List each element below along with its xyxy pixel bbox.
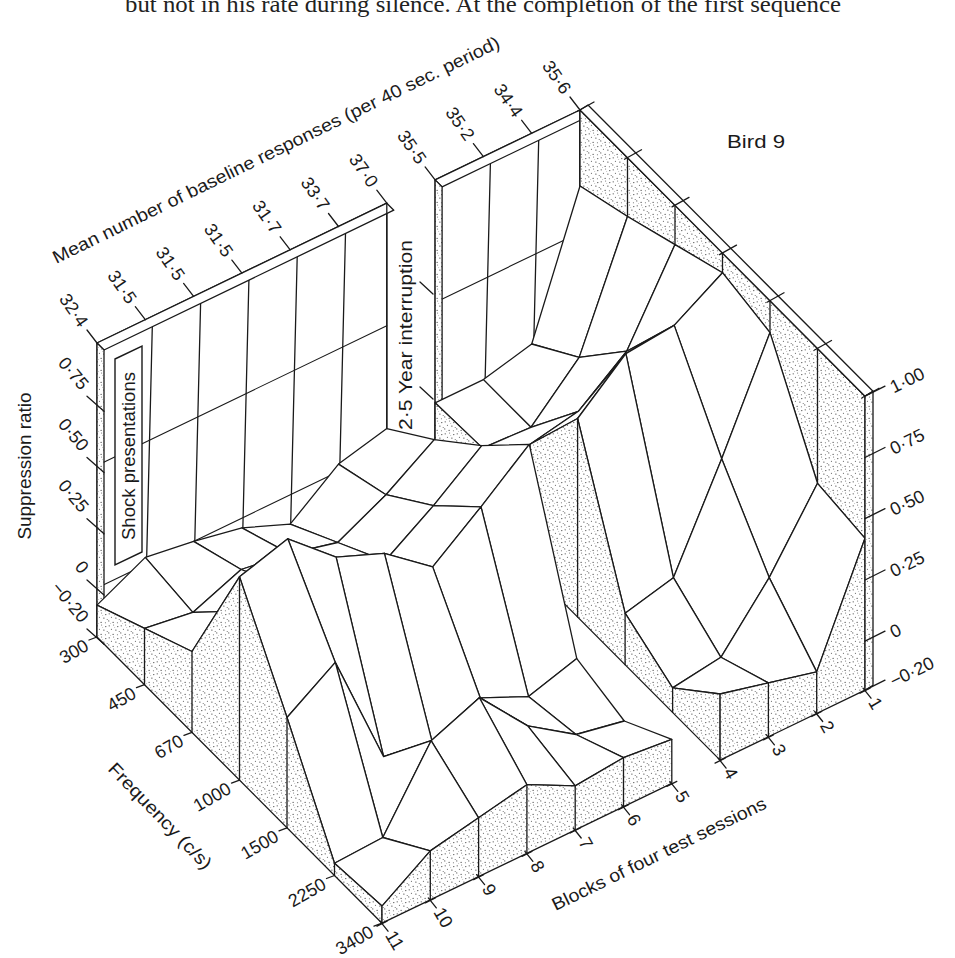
interruption-marker-line xyxy=(420,387,433,399)
baseline-tick xyxy=(135,307,145,320)
interruption-label: 2·5 Year interruption xyxy=(396,240,416,430)
block-tick-label: 11 xyxy=(381,927,408,953)
frequency-tick-label: 2250 xyxy=(285,874,330,911)
z-axis-title: Suppression ratio xyxy=(15,393,35,540)
suppression-surface-chart: but not in his rate during silence. At t… xyxy=(0,0,955,958)
frequency-tick xyxy=(137,685,145,688)
baseline-tick-label: 35·6 xyxy=(538,57,575,98)
baseline-tick-label: 34·4 xyxy=(490,80,527,121)
baseline-tick xyxy=(473,144,483,157)
left-z-tick-label: 0 xyxy=(71,557,93,578)
frequency-tick xyxy=(279,828,287,831)
block-tick-label: 3 xyxy=(768,741,790,760)
page-body-text: but not in his rate during silence. At t… xyxy=(125,0,841,17)
baseline-tick-label: 31·5 xyxy=(152,243,189,284)
left-z-tick-label: 0·75 xyxy=(54,353,92,393)
baseline-tick-label: 35·5 xyxy=(393,127,430,168)
frequency-tick-label: 3400 xyxy=(332,922,377,958)
left-z-tick-label: −0·20 xyxy=(47,578,92,627)
block-tick-label: 1 xyxy=(864,694,886,713)
baseline-tick xyxy=(280,237,290,250)
baseline-tick-label: 32·4 xyxy=(55,290,92,331)
right-z-tick-label: 0·75 xyxy=(887,425,928,459)
frequency-tick-label: 450 xyxy=(103,683,139,715)
block-tick-label: 10 xyxy=(430,904,457,931)
baseline-tick-label: 31·5 xyxy=(103,266,140,307)
baseline-tick xyxy=(184,283,194,296)
frequency-tick xyxy=(184,732,192,735)
baseline-tick-label: 33·7 xyxy=(297,173,334,214)
baseline-tick-label: 31·7 xyxy=(248,197,285,238)
right-z-tick-label: −0·20 xyxy=(887,653,938,691)
block-tick-label: 2 xyxy=(816,718,838,737)
baseline-tick xyxy=(329,214,339,227)
right-axis-strip xyxy=(865,391,873,690)
baseline-tick-label: 31·5 xyxy=(200,220,237,261)
baseline-tick xyxy=(232,260,242,273)
baseline-tick-label: 37·0 xyxy=(345,150,382,191)
left-z-tick-label: 0·50 xyxy=(54,414,92,454)
baseline-tick-label: 35·2 xyxy=(442,103,479,144)
interruption-annotation: 2·5 Year interruption xyxy=(396,240,433,430)
left-z-tick-label: 0·25 xyxy=(54,476,92,516)
frequency-tick xyxy=(89,637,97,640)
chart-title: Bird 9 xyxy=(727,131,785,152)
shock-presentations-label: Shock presentations xyxy=(119,372,139,540)
frequency-tick-label: 300 xyxy=(56,635,92,667)
baseline-tick xyxy=(570,97,580,110)
block-tick-label: 7 xyxy=(575,834,597,853)
right-z-tick-label: 0·25 xyxy=(887,547,928,581)
baseline-tick xyxy=(377,190,387,203)
block-tick-label: 4 xyxy=(719,764,741,783)
right-z-tick-label: 1·00 xyxy=(887,363,928,397)
baseline-tick xyxy=(425,167,435,180)
block-tick-label: 6 xyxy=(623,811,645,830)
frequency-tick xyxy=(232,780,240,783)
right-z-tick-label: 0·50 xyxy=(887,486,928,520)
frequency-tick-label: 1500 xyxy=(237,826,282,863)
baseline-tick xyxy=(87,330,97,343)
shock-presentations-annotation: Shock presentations xyxy=(115,346,142,565)
block-tick-label: 5 xyxy=(671,787,693,806)
block-tick-label: 9 xyxy=(478,881,500,900)
right-z-tick-label: 0 xyxy=(887,620,905,642)
block-tick-label: 8 xyxy=(526,857,548,876)
frequency-tick xyxy=(327,876,335,879)
baseline-tick xyxy=(522,120,532,133)
frequency-tick-label: 1000 xyxy=(190,778,235,815)
frequency-tick-label: 670 xyxy=(151,731,187,763)
interruption-marker-line xyxy=(420,282,433,294)
